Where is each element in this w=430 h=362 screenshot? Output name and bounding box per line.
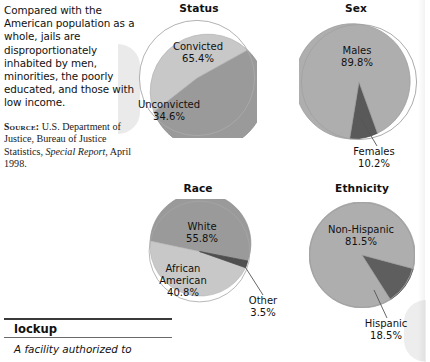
source-report-title: Special Report <box>46 146 106 157</box>
chart-ethnicity: Ethnicity Non-Hispanic 81.5% Hispanic 18… <box>309 182 425 357</box>
source-note: Source: U.S. Department of Justice, Bure… <box>4 121 136 171</box>
chart-status-pie: Convicted 65.4% Unconvicted 34.6% <box>137 18 257 138</box>
leader-line-other <box>147 199 307 359</box>
pie-label-hispanic-name: Hispanic <box>343 318 429 330</box>
pie-label-other: Other 3.5% <box>233 295 293 319</box>
pie-label-convicted-value: 65.4% <box>155 53 241 65</box>
pie-label-females: Females 10.2% <box>333 146 415 170</box>
chart-status: Status Convicted 65.4% Unconvicted 34.6% <box>137 2 261 152</box>
chart-status-title: Status <box>137 2 261 14</box>
pie-label-females-value: 10.2% <box>333 158 415 170</box>
chart-sex-pie: Males 89.8% Females 10.2% <box>299 22 419 142</box>
chart-race-pie: White 55.8% African American 40.8% Other… <box>147 199 252 304</box>
pie-label-females-name: Females <box>333 146 415 158</box>
chart-sex-title: Sex <box>299 2 413 14</box>
chart-race: Race White 55.8% African American 40.8% <box>147 182 277 352</box>
chart-ethnicity-title: Ethnicity <box>309 182 415 194</box>
intro-column: Compared with the American population as… <box>4 4 136 171</box>
chart-ethnicity-pie: Non-Hispanic 81.5% Hispanic 18.5% <box>309 202 415 308</box>
pie-label-hispanic: Hispanic 18.5% <box>343 318 429 342</box>
page-edge-shadow <box>418 0 425 361</box>
pie-label-unconvicted-value: 34.6% <box>123 111 215 123</box>
source-label: Source: <box>4 121 39 132</box>
chart-sex: Sex Males 89.8% Females 10.2% <box>299 2 423 172</box>
pie-label-convicted: Convicted 65.4% <box>155 41 241 65</box>
pie-label-hispanic-value: 18.5% <box>343 330 429 342</box>
pie-label-convicted-name: Convicted <box>155 41 241 53</box>
chart-race-title: Race <box>147 182 249 194</box>
pie-label-unconvicted-name: Unconvicted <box>123 99 215 111</box>
pie-label-other-value: 3.5% <box>233 307 293 319</box>
pie-label-unconvicted: Unconvicted 34.6% <box>123 99 215 123</box>
pie-label-other-name: Other <box>233 295 293 307</box>
intro-paragraph: Compared with the American population as… <box>4 4 136 110</box>
